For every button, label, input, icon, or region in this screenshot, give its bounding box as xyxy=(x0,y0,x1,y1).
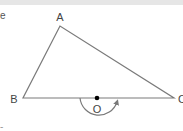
vertex-label-a: A xyxy=(56,12,63,23)
point-o xyxy=(95,96,100,101)
triangle-abc xyxy=(23,26,174,98)
triangle-diagram xyxy=(0,0,183,131)
vertex-label-c: C xyxy=(178,94,183,105)
vertex-label-b: B xyxy=(10,94,17,105)
point-label-o: O xyxy=(93,104,102,115)
